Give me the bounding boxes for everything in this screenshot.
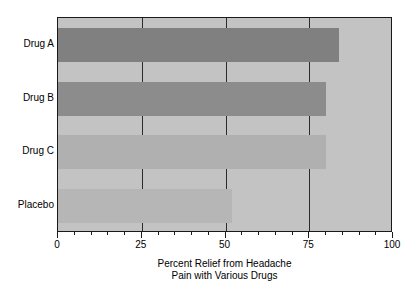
x-axis-ticklabel-0: 0 [54,239,60,250]
x-axis-minor-tick [258,232,259,235]
y-axis-label-drug-b: Drug B [2,93,54,103]
bar-placebo [58,189,232,223]
y-axis-label-placebo: Placebo [2,200,54,210]
bar-drug-a [58,28,339,62]
y-axis-label-drug-c: Drug C [2,146,54,156]
x-axis-minor-tick [74,232,75,235]
x-axis: 0255075100 [57,232,392,254]
x-axis-ticklabel-100: 100 [384,239,401,250]
x-axis-minor-tick [292,232,293,235]
x-axis-minor-tick [241,232,242,235]
x-axis-tick-50 [225,232,226,238]
x-axis-ticklabel-25: 25 [135,239,146,250]
x-axis-minor-tick [342,232,343,235]
x-axis-tick-25 [141,232,142,238]
x-axis-minor-tick [191,232,192,235]
x-axis-minor-tick [124,232,125,235]
x-axis-minor-tick [359,232,360,235]
x-axis-minor-tick [208,232,209,235]
x-axis-minor-tick [275,232,276,235]
chart-caption: Percent Relief from Headache Pain with V… [57,258,392,282]
plot-area [57,17,392,232]
x-axis-ticklabel-75: 75 [303,239,314,250]
caption-line-1: Percent Relief from Headache [57,258,392,270]
x-axis-tick-0 [57,232,58,238]
x-axis-minor-tick [375,232,376,235]
x-axis-ticklabel-50: 50 [219,239,230,250]
x-axis-minor-tick [107,232,108,235]
x-axis-tick-75 [308,232,309,238]
y-axis-label-drug-a: Drug A [2,39,54,49]
bar-chart: Drug ADrug BDrug CPlacebo 0255075100 Per… [0,0,417,297]
x-axis-minor-tick [91,232,92,235]
x-axis-minor-tick [158,232,159,235]
bar-drug-c [58,135,326,169]
y-axis-category-labels: Drug ADrug BDrug CPlacebo [0,17,54,232]
x-axis-minor-tick [174,232,175,235]
bar-drug-b [58,82,326,116]
x-axis-minor-tick [325,232,326,235]
x-axis-tick-100 [392,232,393,238]
caption-line-2: Pain with Various Drugs [57,270,392,282]
